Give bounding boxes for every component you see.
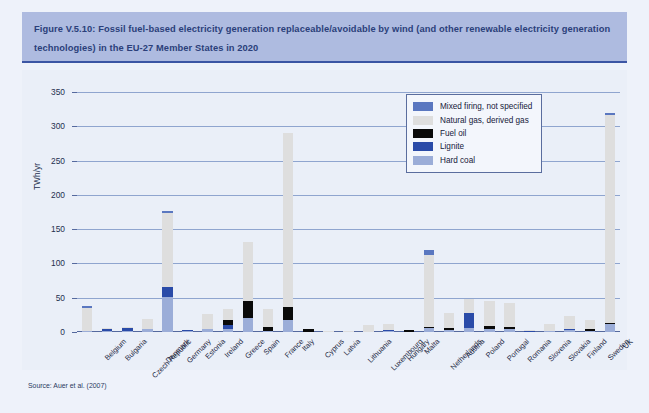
bar-group[interactable] bbox=[363, 325, 373, 332]
bar-segment bbox=[122, 331, 132, 332]
legend-item[interactable]: Fuel oil bbox=[413, 127, 532, 140]
bar-group[interactable] bbox=[142, 319, 152, 332]
bar-segment bbox=[202, 329, 212, 332]
bar-group[interactable] bbox=[182, 331, 192, 332]
bar-segment bbox=[162, 287, 172, 297]
bar-segment bbox=[223, 320, 233, 325]
bar-group[interactable] bbox=[504, 303, 514, 332]
bar-segment bbox=[162, 213, 172, 287]
figure-container: Figure V.5.10: Fossil fuel-based electri… bbox=[0, 0, 649, 413]
bar-segment bbox=[243, 318, 253, 332]
bar-group[interactable] bbox=[524, 330, 534, 332]
bar-segment bbox=[142, 329, 152, 332]
y-axis-tick-label: 0 bbox=[25, 327, 65, 337]
bar-segment bbox=[383, 331, 393, 332]
y-axis-tick-label: 100 bbox=[25, 258, 65, 268]
bar-group[interactable] bbox=[303, 329, 313, 332]
bar-segment bbox=[243, 242, 253, 302]
bar-group[interactable] bbox=[223, 309, 233, 332]
bar-segment bbox=[343, 331, 353, 332]
y-axis-tick-mark bbox=[72, 332, 77, 333]
legend-color-swatch bbox=[413, 116, 433, 125]
bar-group[interactable] bbox=[102, 328, 112, 332]
y-axis-tick-mark bbox=[72, 229, 77, 230]
gridline bbox=[77, 92, 620, 93]
bar-group[interactable] bbox=[343, 331, 353, 332]
bar-segment bbox=[605, 324, 615, 332]
y-axis-tick-label: 250 bbox=[25, 156, 65, 166]
bar-group[interactable] bbox=[605, 114, 615, 332]
y-axis-tick-label: 300 bbox=[25, 121, 65, 131]
y-axis-tick-mark bbox=[72, 126, 77, 127]
bar-segment bbox=[223, 325, 233, 328]
bar-group[interactable] bbox=[564, 316, 574, 332]
bar-segment bbox=[283, 133, 293, 307]
bar-segment bbox=[102, 328, 112, 329]
bar-group[interactable] bbox=[383, 324, 393, 332]
bar-segment bbox=[484, 326, 494, 329]
bar-group[interactable] bbox=[82, 306, 92, 332]
legend-item-label: Natural gas, derived gas bbox=[440, 116, 529, 125]
bar-segment bbox=[283, 320, 293, 332]
bar-segment bbox=[464, 313, 474, 328]
bar-group[interactable] bbox=[162, 211, 172, 332]
legend-item[interactable]: Hard coal bbox=[413, 154, 532, 167]
bar-segment bbox=[202, 314, 212, 329]
bar-group[interactable] bbox=[122, 327, 132, 332]
bar-segment bbox=[102, 329, 112, 331]
legend-item-label: Mixed firing, not specified bbox=[440, 102, 532, 111]
y-axis-tick-mark bbox=[72, 298, 77, 299]
bar-group[interactable] bbox=[464, 299, 474, 332]
gridline bbox=[77, 263, 620, 264]
bar-segment bbox=[444, 330, 454, 332]
bar-segment bbox=[383, 324, 393, 329]
bar-segment bbox=[142, 319, 152, 329]
bar-segment bbox=[564, 330, 574, 332]
bar-group[interactable] bbox=[444, 313, 454, 332]
bar-segment bbox=[263, 327, 273, 330]
legend-item[interactable]: Lignite bbox=[413, 140, 532, 153]
bar-group[interactable] bbox=[323, 331, 333, 332]
y-axis-tick-mark bbox=[72, 92, 77, 93]
bar-segment bbox=[464, 328, 474, 332]
bar-group[interactable] bbox=[263, 309, 273, 332]
y-axis-tick-label: 50 bbox=[25, 293, 65, 303]
bar-segment bbox=[444, 328, 454, 330]
bar-group[interactable] bbox=[202, 314, 212, 332]
gridline bbox=[77, 195, 620, 196]
figure-header-band: Figure V.5.10: Fossil fuel-based electri… bbox=[22, 12, 627, 62]
bar-group[interactable] bbox=[283, 133, 293, 332]
figure-title: Figure V.5.10: Fossil fuel-based electri… bbox=[34, 20, 614, 58]
y-axis-tick-label: 350 bbox=[25, 87, 65, 97]
bar-segment bbox=[585, 329, 595, 331]
bar-segment bbox=[283, 307, 293, 319]
bar-group[interactable] bbox=[404, 330, 414, 332]
bar-segment bbox=[464, 299, 474, 313]
bar-group[interactable] bbox=[424, 250, 434, 332]
bar-segment bbox=[263, 331, 273, 332]
legend-item[interactable]: Natural gas, derived gas bbox=[413, 113, 532, 126]
bar-group[interactable] bbox=[484, 301, 494, 332]
bar-segment bbox=[243, 301, 253, 318]
bar-segment bbox=[484, 329, 494, 332]
bar-segment bbox=[182, 330, 192, 331]
bar-segment bbox=[504, 329, 514, 332]
legend-color-swatch bbox=[413, 102, 433, 111]
y-axis-tick-mark bbox=[72, 161, 77, 162]
bar-segment bbox=[303, 329, 313, 332]
bar-segment bbox=[484, 301, 494, 326]
bar-segment bbox=[605, 115, 615, 323]
bar-group[interactable] bbox=[243, 242, 253, 333]
legend-item-label: Fuel oil bbox=[440, 129, 466, 138]
bar-segment bbox=[162, 211, 172, 213]
bar-segment bbox=[504, 327, 514, 330]
legend-item[interactable]: Mixed firing, not specified bbox=[413, 100, 532, 113]
bar-segment bbox=[263, 309, 273, 327]
bar-segment bbox=[82, 331, 92, 332]
bar-segment bbox=[323, 331, 333, 332]
bar-group[interactable] bbox=[585, 320, 595, 332]
bar-segment bbox=[404, 330, 414, 332]
bar-segment bbox=[162, 297, 172, 332]
bar-segment bbox=[122, 327, 132, 328]
bar-group[interactable] bbox=[544, 324, 554, 332]
